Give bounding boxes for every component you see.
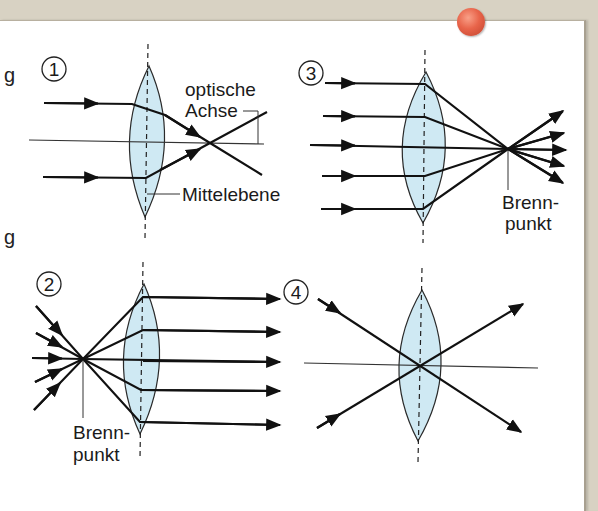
panel-3: 3 Brenn- punkt <box>299 50 566 243</box>
panel-number: 1 <box>49 59 60 80</box>
label-optical-axis-line2: Achse <box>185 100 238 121</box>
label-optical-axis-line1: optische <box>185 79 256 100</box>
label-focal-point-line1: Brenn- <box>502 192 559 213</box>
panel-number: 4 <box>291 282 302 303</box>
label-focal-point-line2: punkt <box>505 213 552 234</box>
label-focal-point-line2: punkt <box>73 444 120 465</box>
panel-number: 3 <box>306 63 317 84</box>
panel-4: 4 <box>284 268 538 462</box>
panel-number: 2 <box>44 274 55 295</box>
label-center-plane: Mittelebene <box>182 184 280 205</box>
panel-2: 2 Brenn- punkt <box>32 262 280 465</box>
label-focal-point-line1: Brenn- <box>73 422 130 443</box>
panel-1: 1 optische Achse Mittelebene <box>29 44 280 238</box>
